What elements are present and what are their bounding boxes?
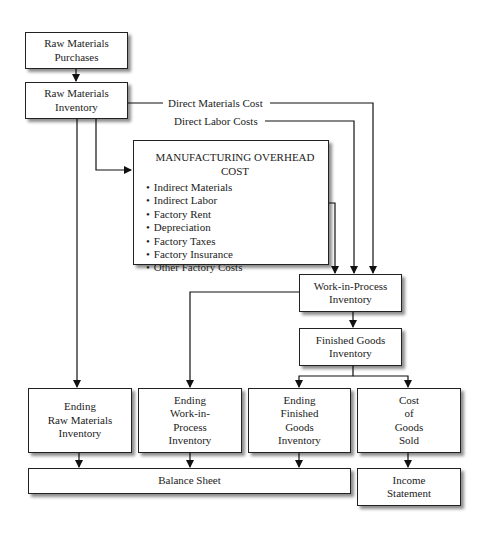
direct-materials-cost-label: Direct Materials Cost [168, 97, 263, 109]
node-label: Finished Goods [316, 334, 385, 348]
node-label: Inventory [55, 101, 98, 115]
ending-finished-goods-inventory-box: Ending Finished Goods Inventory [248, 388, 351, 453]
balance-sheet-box: Balance Sheet [28, 468, 351, 494]
node-label: Ending [284, 394, 316, 408]
node-label: Process [173, 421, 207, 435]
moh-item: Factory Rent [146, 208, 242, 221]
finished-goods-inventory-box: Finished Goods Inventory [299, 328, 402, 366]
node-label: Finished [281, 407, 319, 421]
raw-materials-purchases-box: Raw Materials Purchases [25, 32, 128, 69]
ending-raw-materials-inventory-box: Ending Raw Materials Inventory [28, 388, 132, 453]
moh-item: Indirect Labor [146, 194, 242, 207]
work-in-process-inventory-box: Work-in-Process Inventory [299, 274, 402, 312]
moh-item: Factory Taxes [146, 235, 242, 248]
node-label: Statement [387, 487, 431, 501]
moh-item: Depreciation [146, 221, 242, 234]
node-label: Inventory [59, 427, 102, 441]
node-label: Ending [174, 394, 206, 408]
node-label: Cost [399, 394, 419, 408]
moh-item: Other Factory Costs [146, 261, 242, 274]
income-statement-box: Income Statement [357, 468, 461, 506]
node-label: Balance Sheet [158, 474, 221, 488]
node-label: Goods [285, 421, 314, 435]
raw-materials-inventory-box: Raw Materials Inventory [25, 82, 128, 119]
node-label: Raw Materials [48, 414, 112, 428]
moh-item: Factory Insurance [146, 248, 242, 261]
node-label: Ending [64, 400, 96, 414]
node-label: Raw Materials [44, 37, 108, 51]
node-label: Sold [399, 434, 419, 448]
moh-title: MANUFACTURING OVERHEAD COST [142, 151, 328, 178]
ending-wip-inventory-box: Ending Work-in- Process Inventory [138, 388, 242, 453]
node-label: Raw Materials [44, 87, 108, 101]
node-label: Inventory [329, 347, 372, 361]
node-label: Inventory [329, 293, 372, 307]
node-label: Goods [395, 421, 424, 435]
node-label: Income [393, 474, 426, 488]
node-label: Inventory [169, 434, 212, 448]
direct-labor-costs-label: Direct Labor Costs [174, 115, 258, 127]
manufacturing-overhead-box: MANUFACTURING OVERHEAD COST Indirect Mat… [133, 140, 329, 265]
moh-item: Indirect Materials [146, 181, 242, 194]
node-label: Work-in-Process [314, 280, 388, 294]
node-label: Work-in- [170, 407, 210, 421]
node-label: Inventory [278, 434, 321, 448]
node-label: Purchases [55, 51, 99, 65]
cost-of-goods-sold-box: Cost of Goods Sold [357, 388, 461, 453]
moh-items-list: Indirect Materials Indirect Labor Factor… [142, 181, 242, 275]
node-label: of [404, 407, 413, 421]
connector-lines [0, 0, 487, 536]
